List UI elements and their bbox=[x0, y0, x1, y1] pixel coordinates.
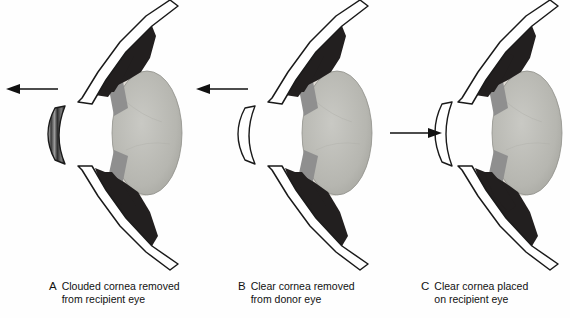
panel-b: B Clear cornea removed from donor eye bbox=[190, 0, 380, 318]
arrow-left-icon bbox=[6, 84, 58, 94]
caption-line-2: from recipient eye bbox=[62, 293, 180, 306]
panel-a: A Clouded cornea removed from recipient … bbox=[0, 0, 190, 318]
caption-line-1: Clouded cornea removed bbox=[62, 280, 180, 293]
caption-line-1: Clear cornea removed bbox=[251, 280, 355, 293]
caption-c: C Clear cornea placed on recipient eye bbox=[380, 280, 570, 314]
arrow-left-icon bbox=[196, 84, 248, 94]
caption-b: B Clear cornea removed from donor eye bbox=[190, 280, 380, 314]
panel-a-illustration bbox=[0, 0, 190, 272]
corneal-transplant-figure: A Clouded cornea removed from recipient … bbox=[0, 0, 570, 318]
caption-a: A Clouded cornea removed from recipient … bbox=[0, 280, 190, 314]
clear-cornea bbox=[238, 106, 255, 164]
panel-b-illustration bbox=[190, 0, 380, 272]
panel-c: C Clear cornea placed on recipient eye bbox=[380, 0, 570, 318]
clouded-cornea bbox=[48, 106, 65, 164]
caption-letter-a: A bbox=[49, 280, 57, 293]
arrow-right-icon bbox=[390, 128, 442, 138]
caption-line-1: Clear cornea placed bbox=[434, 280, 528, 293]
caption-line-2: on recipient eye bbox=[434, 293, 528, 306]
caption-letter-c: C bbox=[421, 280, 429, 293]
caption-letter-b: B bbox=[238, 280, 246, 293]
caption-line-2: from donor eye bbox=[251, 293, 355, 306]
panel-c-illustration bbox=[380, 0, 570, 272]
